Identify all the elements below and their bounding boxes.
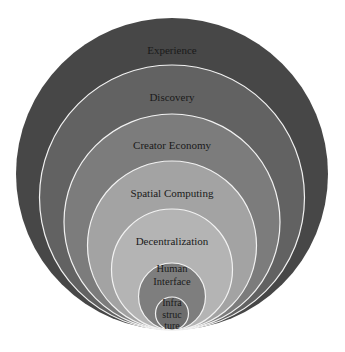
label-creator-economy: Creator Economy xyxy=(133,139,211,151)
label-experience: Experience xyxy=(147,44,197,56)
label-human-interface-line2: Interface xyxy=(153,276,191,287)
label-human-interface-line1: Human xyxy=(157,263,189,274)
label-discovery: Discovery xyxy=(149,91,195,103)
label-infrastructure-line2: struc xyxy=(162,309,182,320)
label-infrastructure-line1: Infra xyxy=(162,297,182,308)
layers-diagram: Experience Discovery Creator Economy Spa… xyxy=(0,0,345,352)
layer-infrastructure: Infra struc ture xyxy=(156,297,189,331)
label-decentralization: Decentralization xyxy=(136,235,209,247)
label-spatial-computing: Spatial Computing xyxy=(131,187,214,199)
label-infrastructure-line3: ture xyxy=(164,320,180,331)
